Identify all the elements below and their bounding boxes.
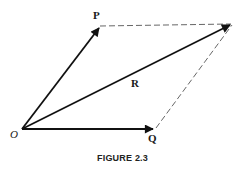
- figure-caption: FIGURE 2.3: [97, 153, 148, 163]
- dashed-edge-q-to-r: [156, 25, 232, 128]
- label-r: R: [131, 77, 140, 89]
- label-p: P: [93, 9, 100, 21]
- label-o: O: [10, 128, 18, 140]
- vector-p-arrow: [22, 28, 99, 129]
- label-q: Q: [148, 132, 157, 144]
- vector-parallelogram-diagram: O P Q R FIGURE 2.3: [0, 0, 242, 175]
- vector-r-arrow: [22, 25, 230, 129]
- dashed-edge-p-to-r: [100, 24, 231, 26]
